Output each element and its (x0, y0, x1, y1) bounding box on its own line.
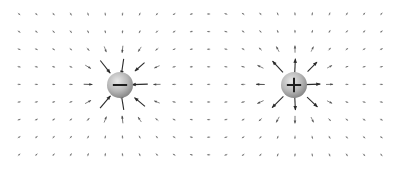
arrowhead-icon (330, 83, 333, 85)
arrowhead-icon (277, 136, 279, 139)
arrowhead-icon (87, 31, 89, 34)
arrowhead-icon (190, 13, 193, 15)
arrowhead-icon (381, 66, 384, 68)
arrowhead-icon (18, 83, 21, 85)
arrowhead-icon (172, 83, 175, 85)
arrowhead-icon (154, 101, 157, 103)
arrowhead-icon (311, 119, 313, 122)
arrowhead-icon (87, 153, 89, 156)
arrowhead-icon (35, 48, 38, 50)
arrowhead-icon (207, 136, 210, 138)
arrowhead-icon (18, 48, 21, 50)
arrowhead-icon (153, 83, 156, 85)
arrowhead-icon (380, 48, 383, 50)
arrowhead-icon (172, 101, 175, 103)
arrowhead-icon (294, 12, 296, 15)
arrowhead-icon (241, 66, 244, 68)
arrowhead-icon (328, 12, 330, 15)
arrowhead-icon (311, 30, 313, 33)
arrowhead-icon (224, 66, 227, 68)
arrowhead-icon (190, 154, 193, 156)
arrowhead-icon (139, 13, 141, 16)
field-arrows (18, 12, 384, 157)
arrowhead-icon (257, 65, 260, 67)
arrowhead-icon (190, 66, 193, 68)
arrowhead-icon (53, 66, 56, 68)
arrowhead-icon (346, 101, 349, 103)
arrowhead-icon (104, 31, 106, 34)
arrowhead-icon (294, 45, 296, 48)
arrowhead-icon (363, 66, 366, 68)
arrowhead-icon (190, 83, 193, 85)
arrowhead-icon (293, 106, 297, 111)
arrowhead-icon (87, 13, 89, 16)
arrowhead-icon (294, 30, 296, 33)
arrowhead-icon (207, 101, 210, 103)
arrowhead-icon (122, 13, 124, 16)
arrowhead-icon (207, 13, 210, 15)
arrowhead-icon (207, 154, 210, 156)
arrowhead-icon (104, 153, 106, 156)
arrowhead-icon (207, 31, 210, 33)
arrowhead-icon (277, 154, 279, 157)
arrowhead-icon (293, 58, 297, 63)
arrowhead-icon (154, 66, 157, 68)
arrowhead-icon (207, 119, 210, 121)
arrowhead-icon (311, 12, 313, 15)
arrowhead-icon (172, 48, 175, 50)
arrowhead-icon (276, 119, 279, 122)
arrowhead-icon (311, 136, 313, 139)
arrowhead-icon (207, 83, 210, 85)
arrowhead-icon (18, 66, 21, 68)
arrowhead-icon (104, 116, 106, 119)
arrowhead-icon (190, 119, 193, 121)
arrowhead-icon (328, 154, 330, 157)
arrowhead-icon (172, 66, 175, 68)
arrowhead-icon (316, 82, 321, 86)
arrowhead-icon (381, 83, 384, 85)
arrowhead-icon (224, 13, 227, 15)
arrowhead-icon (207, 66, 210, 68)
arrowhead-icon (122, 135, 124, 138)
arrowhead-icon (18, 101, 21, 103)
arrowhead-icon (346, 83, 349, 85)
arrowhead-icon (190, 48, 193, 50)
arrowhead-icon (53, 101, 56, 103)
arrowhead-icon (241, 119, 244, 121)
arrowhead-icon (224, 48, 227, 50)
arrowhead-icon (224, 31, 227, 33)
arrowhead-icon (104, 49, 106, 52)
arrowhead-icon (36, 83, 39, 85)
arrowhead-icon (294, 120, 297, 123)
arrowhead-icon (277, 30, 279, 33)
arrowhead-icon (277, 12, 279, 15)
arrowhead-icon (35, 119, 38, 121)
arrowhead-icon (88, 100, 91, 103)
arrowhead-icon (257, 101, 260, 103)
arrowhead-icon (224, 119, 227, 121)
arrowhead-icon (104, 13, 106, 16)
arrowhead-icon (190, 136, 193, 138)
negative-charge (107, 72, 133, 98)
arrowhead-icon (380, 119, 383, 121)
arrowhead-icon (190, 31, 193, 33)
positive-charge (281, 72, 307, 98)
field-diagram (0, 0, 405, 172)
arrowhead-icon (311, 154, 313, 157)
arrowhead-icon (294, 154, 296, 157)
arrowhead-icon (241, 48, 244, 50)
arrowhead-icon (329, 65, 332, 67)
arrowhead-icon (363, 83, 366, 85)
arrowhead-icon (276, 46, 278, 49)
arrowhead-icon (53, 83, 56, 85)
arrowhead-icon (224, 101, 227, 103)
arrowhead-icon (88, 66, 91, 69)
arrowhead-icon (122, 31, 124, 34)
arrowhead-icon (190, 101, 193, 103)
arrowhead-icon (70, 83, 73, 85)
arrowhead-icon (139, 153, 141, 156)
arrowhead-icon (139, 31, 141, 34)
arrowhead-icon (363, 101, 366, 103)
arrowhead-icon (294, 137, 296, 140)
arrowhead-icon (224, 154, 227, 156)
